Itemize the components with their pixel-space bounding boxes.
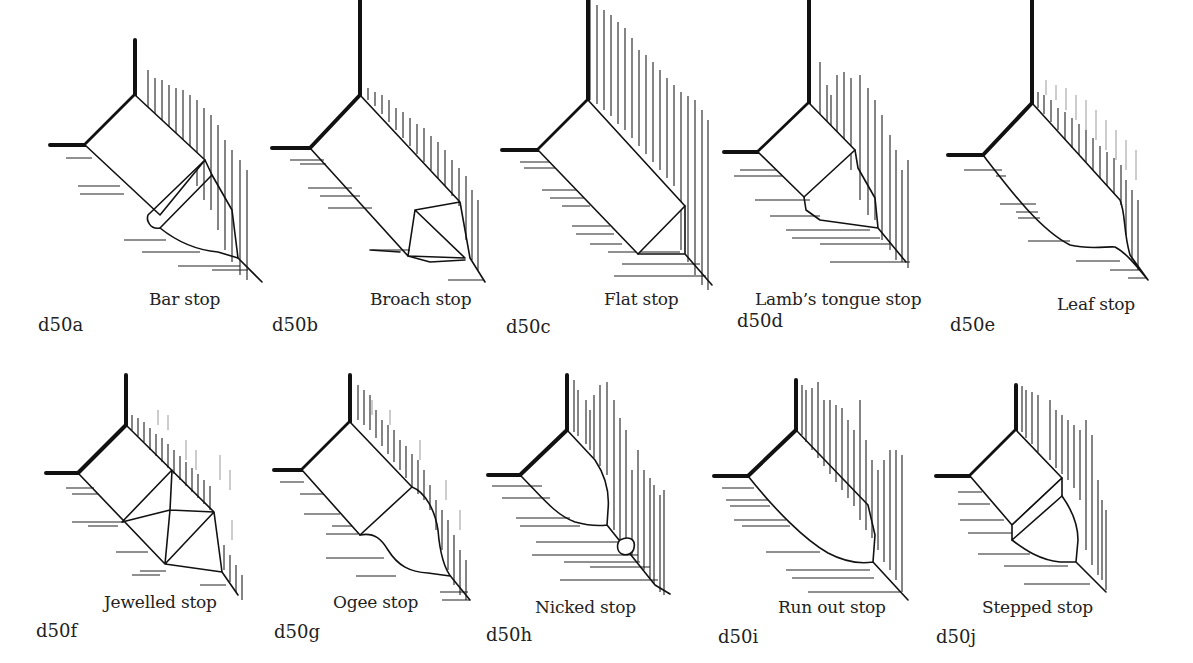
- nicked-stop-drawing: [480, 370, 710, 610]
- figure-code: d50i: [718, 626, 758, 647]
- run-out-stop-drawing: [700, 370, 930, 610]
- caption: Ogee stop: [333, 592, 418, 612]
- bar-stop-drawing: [0, 0, 280, 300]
- ogee-stop-drawing: [260, 370, 490, 610]
- figure-code: d50d: [737, 310, 783, 331]
- caption: Flat stop: [604, 289, 678, 309]
- lambs-tongue-stop-drawing: [710, 0, 950, 300]
- figure-code: d50f: [36, 620, 77, 641]
- caption: Leaf stop: [1057, 294, 1135, 314]
- flat-stop-drawing: [490, 0, 720, 300]
- stepped-stop-drawing: [920, 370, 1193, 610]
- figure-code: d50e: [950, 314, 995, 335]
- leaf-stop-drawing: [940, 0, 1193, 300]
- caption: Run out stop: [778, 597, 886, 617]
- caption: Bar stop: [149, 289, 220, 309]
- caption: Lamb’s tongue stop: [755, 289, 921, 309]
- figure-code: d50h: [486, 624, 532, 645]
- figure-code: d50g: [274, 621, 320, 642]
- caption: Jewelled stop: [104, 592, 217, 612]
- figure-code: d50c: [506, 316, 551, 337]
- jewelled-stop-drawing: [0, 370, 260, 610]
- figure-code: d50a: [38, 314, 83, 335]
- caption: Stepped stop: [982, 597, 1093, 617]
- figure-code: d50j: [936, 626, 976, 647]
- figure-code: d50b: [272, 314, 318, 335]
- chamfer-stops-figure: Bar stop d50a Broach stop d50b Flat st: [0, 0, 1193, 663]
- caption: Nicked stop: [535, 597, 636, 617]
- caption: Broach stop: [370, 289, 471, 309]
- broach-stop-drawing: [260, 0, 500, 300]
